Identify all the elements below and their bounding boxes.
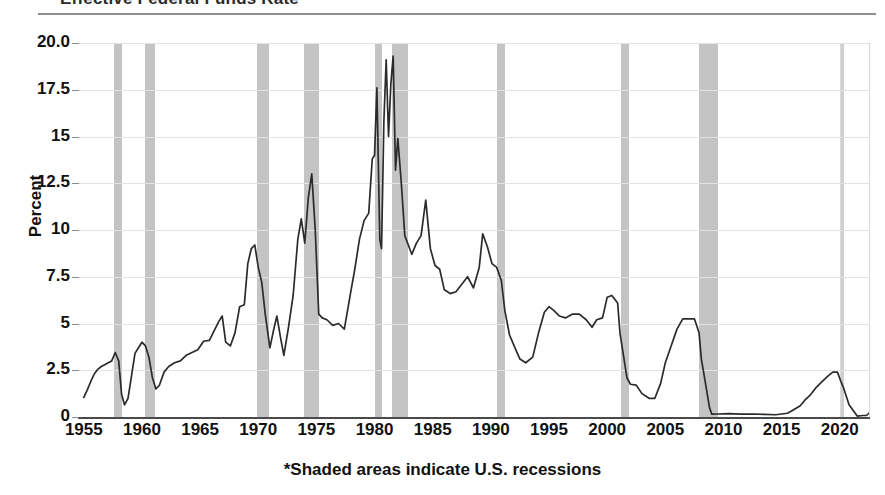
y-tick-mark: [72, 90, 79, 91]
x-tick-label: 1970: [239, 420, 277, 440]
x-tick-label: 2000: [588, 420, 626, 440]
x-tick-label: 1995: [530, 420, 568, 440]
x-tick-label: 2005: [646, 420, 684, 440]
y-tick-label: 12.5: [8, 172, 70, 192]
x-tick-label: 1985: [414, 420, 452, 440]
y-tick-mark: [72, 183, 79, 184]
y-tick-labels: 20.017.51512.5107.552.50: [0, 43, 70, 417]
chart-title-strip: Effective Federal Funds Rate: [0, 0, 885, 14]
x-tick-label: 2010: [705, 420, 743, 440]
y-tick-label: 17.5: [8, 79, 70, 99]
title-divider: [38, 13, 876, 15]
y-tick-label: 20.0: [8, 32, 70, 52]
x-tick-label: 1955: [65, 420, 103, 440]
page-title: Effective Federal Funds Rate: [60, 0, 299, 9]
x-tick-label: 1965: [181, 420, 219, 440]
plot-right-border: [869, 43, 870, 417]
y-tick-label: 0: [8, 406, 70, 426]
y-tick-mark: [72, 230, 79, 231]
y-tick-mark: [72, 43, 79, 44]
y-tick-label: 15: [8, 126, 70, 146]
y-tick-label: 7.5: [8, 266, 70, 286]
x-tick-label: 1980: [356, 420, 394, 440]
x-tick-label: 1960: [123, 420, 161, 440]
y-tick-label: 5: [8, 313, 70, 333]
y-tick-mark: [72, 417, 79, 418]
y-tick-mark: [72, 277, 79, 278]
y-tick-label: 2.5: [8, 359, 70, 379]
y-tick-mark: [72, 137, 79, 138]
footnote: *Shaded areas indicate U.S. recessions: [0, 460, 885, 480]
y-tick-label: 10: [8, 219, 70, 239]
x-tick-label: 1990: [472, 420, 510, 440]
plot-area: [78, 43, 870, 417]
x-tick-label: 2015: [763, 420, 801, 440]
chart-root: Effective Federal Funds Rate Percent 20.…: [0, 0, 885, 495]
x-tick-label: 1975: [297, 420, 335, 440]
x-tick-label: 2020: [821, 420, 859, 440]
x-axis-line: [78, 417, 870, 419]
y-tick-mark: [72, 370, 79, 371]
series-line-effective-federal-funds-rate: [78, 43, 870, 417]
y-tick-mark: [72, 324, 79, 325]
